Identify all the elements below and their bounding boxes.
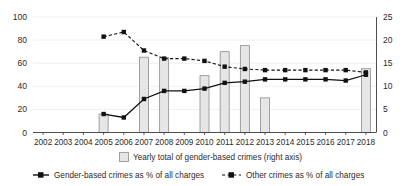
data-point [182, 89, 186, 93]
x-label-2004: 2004 [74, 138, 93, 147]
right-tick-5: 5 [383, 104, 388, 114]
left-tick-20: 20 [18, 104, 28, 114]
left-tick-40: 40 [18, 81, 28, 91]
left-axis-tick-labels: 020406080100 [13, 12, 27, 138]
x-label-2018: 2018 [357, 138, 376, 147]
x-label-2012: 2012 [236, 138, 255, 147]
x-label-2006: 2006 [115, 138, 134, 147]
bar-2012 [240, 46, 249, 133]
bar-2018 [361, 69, 370, 133]
legend-label-solid: Gender-based crimes as % of all charges [54, 171, 204, 180]
legend-label-bar: Yearly total of gender-based crimes (rig… [133, 153, 302, 162]
data-point [222, 81, 226, 85]
x-label-2002: 2002 [34, 138, 53, 147]
data-point [344, 78, 348, 82]
x-label-2013: 2013 [256, 138, 275, 147]
right-tick-10: 10 [383, 81, 393, 91]
data-point [243, 79, 247, 83]
data-point [162, 89, 166, 93]
x-label-2016: 2016 [316, 138, 335, 147]
data-point [263, 77, 267, 81]
data-point [364, 70, 368, 74]
left-tick-60: 60 [18, 58, 28, 68]
data-point [303, 77, 307, 81]
right-tick-25: 25 [383, 12, 393, 22]
data-point [101, 34, 105, 38]
data-point [222, 64, 226, 68]
legend-swatch-bar [120, 153, 129, 162]
data-point [142, 48, 146, 52]
legend-label-dashed: Other crimes as % of all charges [246, 171, 364, 180]
gender-based-crimes-chart: 020406080100 0510152025 2002200320042005… [0, 0, 408, 186]
left-tick-0: 0 [22, 128, 27, 138]
x-label-2017: 2017 [337, 138, 356, 147]
bar-2013 [261, 98, 270, 133]
bar-2005 [99, 114, 108, 132]
left-tick-100: 100 [13, 12, 27, 22]
bar-2011 [220, 52, 229, 133]
right-tick-15: 15 [383, 58, 393, 68]
data-point [142, 97, 146, 101]
bar-series [99, 46, 370, 133]
right-tick-20: 20 [383, 35, 393, 45]
data-point [344, 68, 348, 72]
chart-legend: Yearly total of gender-based crimes (rig… [33, 153, 364, 181]
left-tick-80: 80 [18, 35, 28, 45]
right-tick-0: 0 [383, 128, 388, 138]
data-point [122, 115, 126, 119]
chart-container: 020406080100 0510152025 2002200320042005… [0, 0, 408, 186]
data-point [182, 56, 186, 60]
data-point [122, 30, 126, 34]
x-label-2015: 2015 [296, 138, 315, 147]
bar-2007 [139, 57, 148, 132]
data-point [202, 86, 206, 90]
x-label-2007: 2007 [135, 138, 154, 147]
bar-2010 [200, 76, 209, 133]
data-point [243, 67, 247, 71]
data-point [323, 68, 327, 72]
data-point [263, 68, 267, 72]
x-label-2011: 2011 [216, 138, 234, 147]
x-label-2009: 2009 [175, 138, 194, 147]
right-axis-tick-labels: 0510152025 [383, 12, 393, 138]
x-label-2014: 2014 [276, 138, 295, 147]
x-label-2003: 2003 [54, 138, 73, 147]
legend-marker-solid [38, 172, 44, 178]
x-axis-tick-labels: 2002200320042005200620072008200920102011… [34, 138, 375, 147]
x-label-2010: 2010 [195, 138, 214, 147]
legend-marker-dashed [229, 172, 235, 178]
data-point [202, 59, 206, 63]
data-point [283, 77, 287, 81]
bar-2008 [160, 58, 169, 133]
data-point [323, 77, 327, 81]
data-point [303, 68, 307, 72]
data-point [162, 56, 166, 60]
data-point [101, 112, 105, 116]
x-label-2008: 2008 [155, 138, 174, 147]
x-label-2005: 2005 [95, 138, 114, 147]
data-point [283, 68, 287, 72]
